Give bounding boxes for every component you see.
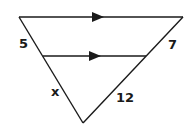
- label-left-lower: x: [51, 85, 59, 98]
- label-right-lower: 12: [116, 91, 134, 104]
- parallel-arrow-icon: [89, 51, 101, 61]
- left-side: [19, 17, 83, 123]
- right-side: [83, 17, 183, 123]
- label-right-upper: 7: [168, 38, 177, 51]
- parallel-arrow-icon: [92, 12, 104, 22]
- label-left-upper: 5: [19, 37, 28, 50]
- triangle-diagram: [0, 0, 184, 128]
